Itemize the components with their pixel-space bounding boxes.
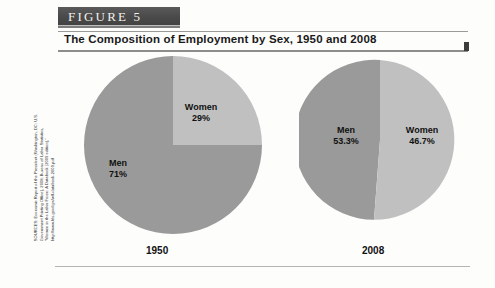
pie-1950-women-label: Women 29% bbox=[170, 102, 232, 124]
chart-area: Women 29% Men 71% 1950 Men 53.3% Wom bbox=[0, 52, 495, 252]
bottom-rule bbox=[55, 266, 470, 267]
pie-1950-men-name: Men bbox=[109, 158, 127, 168]
figure-page: FIGURE 5 The Composition of Employment b… bbox=[0, 0, 495, 288]
pie-1950-svg bbox=[84, 54, 262, 236]
title-rule-top bbox=[58, 31, 468, 32]
pie-2008-year: 2008 bbox=[362, 245, 384, 256]
pie-1950-men-label: Men 71% bbox=[94, 158, 142, 180]
pie-2008-men-pct: 53.3% bbox=[311, 136, 381, 147]
figure-banner: FIGURE 5 bbox=[58, 7, 180, 25]
figure-title: The Composition of Employment by Sex, 19… bbox=[64, 33, 376, 45]
pie-1950-women-pct: 29% bbox=[170, 113, 232, 124]
pie-2008-women-label: Women 46.7% bbox=[387, 125, 457, 147]
title-rule-endcap bbox=[464, 42, 469, 51]
pie-2008-men-label: Men 53.3% bbox=[311, 125, 381, 147]
pie-2008-men-name: Men bbox=[337, 125, 355, 135]
pie-1950-year: 1950 bbox=[146, 245, 168, 256]
banner-underline bbox=[58, 26, 180, 28]
pie-1950-men-pct: 71% bbox=[94, 169, 142, 180]
pie-2008-women-name: Women bbox=[406, 125, 438, 135]
pie-chart-2008: Men 53.3% Women 46.7% bbox=[299, 58, 461, 222]
pie-1950-slice-women bbox=[173, 56, 262, 145]
pie-chart-1950: Women 29% Men 71% bbox=[84, 54, 262, 236]
figure-banner-label: FIGURE 5 bbox=[68, 9, 142, 25]
pie-1950-women-name: Women bbox=[185, 102, 217, 112]
pie-2008-women-pct: 46.7% bbox=[387, 136, 457, 147]
